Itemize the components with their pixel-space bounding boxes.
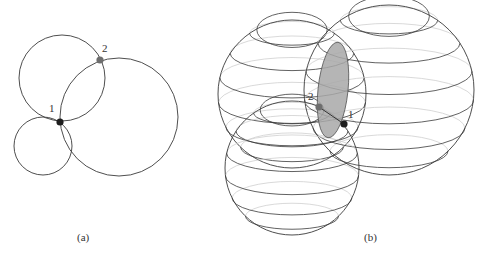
latitude-ring [330,151,448,168]
intersection-point-2 [96,56,103,63]
panel-a-caption: (a) [77,231,90,244]
pole-cap [349,0,430,36]
latitude-ring [232,198,352,215]
panel-a-circles-diagram: 12 [14,35,178,176]
latitude-ring [246,216,339,229]
latitude-ring [225,176,358,195]
panel-b-spheres-diagram: 12 [218,0,474,235]
large-right-circle [60,58,178,176]
figure: 12 (a) 12 (b) [0,0,486,256]
point-label-1: 1 [348,108,354,120]
point-label-1: 1 [49,102,55,114]
point-label-2: 2 [102,42,108,54]
intersection-point-1 [56,118,63,125]
intersection-point-1 [340,120,347,127]
small-lower-circle [14,117,72,175]
panel-b-caption: (b) [364,231,377,244]
intersection-point-2 [315,103,322,110]
point-label-2: 2 [308,90,314,102]
upper-left-circle [19,35,105,121]
pole-cap [257,12,327,47]
